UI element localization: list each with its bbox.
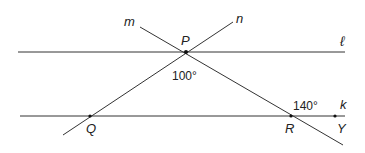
- angle-label-r: 140°: [293, 99, 318, 113]
- label-r: R: [285, 121, 294, 136]
- line-m: [140, 27, 343, 145]
- label-l: ℓ: [339, 33, 345, 49]
- point-r: [289, 114, 292, 117]
- label-n: n: [236, 11, 243, 26]
- point-p: [184, 50, 188, 54]
- point-y: [333, 114, 336, 117]
- point-q: [88, 114, 91, 117]
- label-m: m: [124, 14, 135, 29]
- label-p: P: [181, 33, 190, 48]
- label-k: k: [340, 97, 348, 112]
- angle-label-p: 100°: [172, 69, 197, 83]
- label-y: Y: [337, 121, 347, 136]
- line-n: [63, 22, 233, 135]
- geometry-diagram: m n ℓ k P Q R Y 100° 140°: [0, 0, 365, 153]
- label-q: Q: [86, 121, 96, 136]
